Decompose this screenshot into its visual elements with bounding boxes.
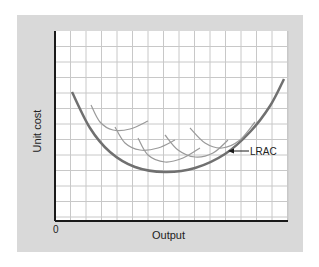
- y-axis-label: Unit cost: [31, 101, 43, 161]
- chart-plot: [0, 0, 319, 267]
- x-axis-label: Output: [152, 229, 185, 241]
- lrac-label: LRAC: [250, 146, 277, 157]
- origin-label: 0: [53, 224, 59, 235]
